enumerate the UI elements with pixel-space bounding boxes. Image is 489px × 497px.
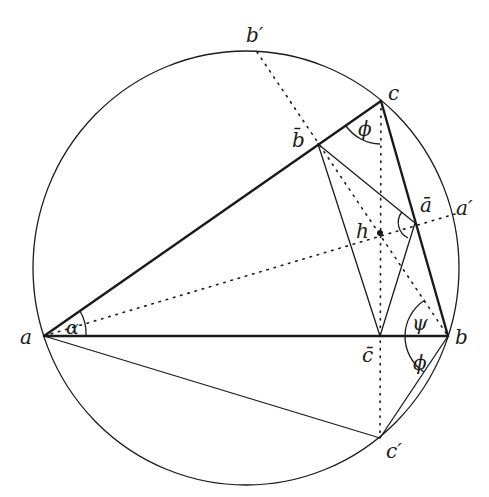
circumcircle — [33, 51, 459, 485]
altitude-a-dotted — [44, 214, 455, 336]
label-a-bar: ā — [420, 193, 432, 217]
label-c: c — [388, 81, 399, 105]
label-h: h — [356, 219, 369, 243]
label-b-bar: b̄ — [292, 127, 305, 152]
side-ac — [44, 101, 381, 336]
label-a: a — [20, 325, 32, 349]
orthocenter-dot — [377, 230, 383, 236]
label-psi-b: ψ — [412, 311, 428, 335]
orthic-bbar-cbar — [318, 144, 380, 336]
orthic-bbar-abar — [318, 144, 415, 223]
label-b-prime: b′ — [246, 23, 264, 47]
line-a-cprime — [44, 336, 380, 438]
label-phi-c: ϕ — [358, 117, 372, 141]
label-phi-b: ϕ — [413, 351, 427, 375]
label-c-prime: c′ — [386, 439, 402, 463]
alpha-arc — [80, 311, 86, 336]
altitude-c-dotted — [380, 101, 381, 438]
label-c-bar: c̄ — [362, 343, 373, 367]
label-a-prime: a′ — [456, 196, 473, 220]
geometry-diagram: a b c b̄ ā c̄ h a′ b′ c′ α ϕ ψ ϕ — [0, 0, 489, 497]
label-alpha: α — [66, 316, 79, 338]
orthic-cbar-abar — [380, 223, 415, 336]
label-b: b — [455, 325, 468, 349]
